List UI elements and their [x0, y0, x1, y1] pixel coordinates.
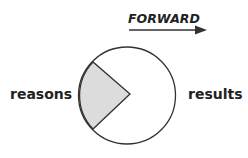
- forward-label: FORWARD: [128, 11, 200, 26]
- reasons-label: reasons: [10, 86, 72, 102]
- forward-arrow-icon: [129, 26, 207, 35]
- results-label: results: [188, 86, 243, 102]
- forward-diagram: FORWARD reasons results: [0, 0, 248, 158]
